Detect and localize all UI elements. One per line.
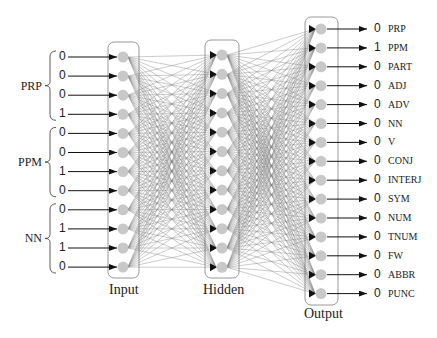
output-node <box>316 80 327 91</box>
output-node <box>316 156 327 167</box>
hidden-node <box>217 165 228 176</box>
output-node <box>316 194 327 205</box>
output-value: 0 <box>374 117 381 129</box>
hidden-node <box>217 185 228 196</box>
output-tag: SYM <box>388 194 410 204</box>
input-group-label: PRP <box>0 80 42 92</box>
input-group-label: PPM <box>0 156 42 168</box>
input-node <box>118 166 129 177</box>
input-node <box>118 223 129 234</box>
output-tag: V <box>388 137 395 147</box>
input-value: 0 <box>59 69 66 81</box>
input-value: 1 <box>59 241 66 253</box>
hidden-node <box>217 50 228 61</box>
output-value: 0 <box>374 173 381 185</box>
hidden-node <box>217 223 228 234</box>
output-value: 0 <box>374 135 381 147</box>
hidden-node <box>217 146 228 157</box>
output-tag: PPM <box>388 43 408 53</box>
output-value: 0 <box>374 249 381 261</box>
hidden-node <box>217 204 228 215</box>
output-layer-title: Output <box>304 306 343 322</box>
output-node <box>316 118 327 129</box>
input-node <box>118 71 129 82</box>
input-node <box>118 262 129 273</box>
hidden-node <box>217 69 228 80</box>
output-tag: ABBR <box>388 270 415 280</box>
output-tag: FW <box>388 251 403 261</box>
input-value: 0 <box>59 203 66 215</box>
input-node <box>118 147 129 158</box>
input-value: 1 <box>59 165 66 177</box>
output-tag: NUM <box>388 213 411 223</box>
output-value: 1 <box>374 41 381 53</box>
input-value: 1 <box>59 222 66 234</box>
output-value: 0 <box>374 287 381 299</box>
hidden-node <box>217 88 228 99</box>
group-brace <box>45 204 56 273</box>
input-node <box>118 128 129 139</box>
hidden-node <box>217 243 228 254</box>
input-node <box>118 243 129 254</box>
output-value: 0 <box>374 154 381 166</box>
output-node <box>316 99 327 110</box>
output-value: 0 <box>374 268 381 280</box>
input-value: 0 <box>59 184 66 196</box>
hidden-layer-title: Hidden <box>203 282 244 298</box>
input-node <box>118 109 129 120</box>
output-node <box>316 231 327 242</box>
output-tag: PUNC <box>388 289 415 299</box>
output-node <box>316 175 327 186</box>
output-tag: NN <box>388 119 402 129</box>
output-node <box>316 288 327 299</box>
output-node <box>316 61 327 72</box>
input-value: 1 <box>59 107 66 119</box>
output-tag: PRP <box>388 24 406 34</box>
connections <box>128 29 315 294</box>
output-node <box>316 250 327 261</box>
group-brace <box>45 51 56 120</box>
output-node <box>316 213 327 224</box>
input-value: 0 <box>59 88 66 100</box>
output-value: 0 <box>374 79 381 91</box>
output-node <box>316 269 327 280</box>
output-value: 0 <box>374 211 381 223</box>
output-tag: INTERJ <box>388 175 421 185</box>
input-value: 0 <box>59 146 66 158</box>
output-node <box>316 137 327 148</box>
output-value: 0 <box>374 22 381 34</box>
group-brace <box>45 127 56 196</box>
output-value: 0 <box>374 192 381 204</box>
input-value: 0 <box>59 126 66 138</box>
output-value: 0 <box>374 98 381 110</box>
input-node <box>118 204 129 215</box>
input-node <box>118 185 129 196</box>
input-layer-title: Input <box>109 282 139 298</box>
output-tag: TNUM <box>388 232 417 242</box>
input-group-label: NN <box>0 232 42 244</box>
output-tag: CONJ <box>388 156 413 166</box>
hidden-node <box>217 262 228 273</box>
output-value: 0 <box>374 230 381 242</box>
hidden-node <box>217 127 228 138</box>
output-tag: ADV <box>388 100 410 110</box>
output-node <box>316 24 327 35</box>
output-value: 0 <box>374 60 381 72</box>
input-value: 0 <box>59 260 66 272</box>
output-tag: PART <box>388 62 412 72</box>
input-node <box>118 90 129 101</box>
hidden-node <box>217 107 228 118</box>
input-node <box>118 52 129 63</box>
output-node <box>316 42 327 53</box>
output-tag: ADJ <box>388 81 406 91</box>
input-value: 0 <box>59 50 66 62</box>
